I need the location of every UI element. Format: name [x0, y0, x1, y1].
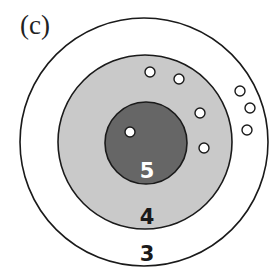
data-dot — [199, 143, 209, 153]
data-dot — [125, 127, 135, 137]
ring-label-inner: 5 — [140, 159, 155, 183]
concentric-rings-diagram: 3 4 5 — [0, 0, 280, 280]
data-dot — [174, 74, 184, 84]
data-dot — [195, 108, 205, 118]
data-dot — [235, 86, 245, 96]
data-dot — [145, 67, 155, 77]
data-dot — [245, 103, 255, 113]
ring-label-outer: 3 — [140, 242, 155, 266]
ring-label-middle: 4 — [140, 205, 155, 229]
data-dot — [242, 125, 252, 135]
